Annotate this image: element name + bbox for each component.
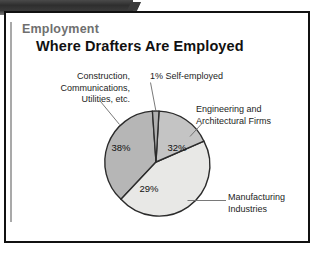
pie-chart xyxy=(0,0,325,255)
callout-label-engineering: Engineering and Architectural Firms xyxy=(196,104,308,127)
callout-label-manufacturing: Manufacturing Industries xyxy=(228,192,316,215)
chart-area: Construction, Communications, Utilities,… xyxy=(0,0,325,255)
callout-label-self-employed: 1% Self-employed xyxy=(150,71,270,83)
pie-value-construction: 38% xyxy=(105,142,137,153)
pie-value-manufacturing: 29% xyxy=(133,183,165,194)
leader-line-self-employed xyxy=(151,83,157,112)
screenshot-root: Employment Where Drafters Are Employed C… xyxy=(0,0,325,255)
callout-label-construction: Construction, Communications, Utilities,… xyxy=(18,71,130,106)
pie-value-engineering: 32% xyxy=(161,142,193,153)
